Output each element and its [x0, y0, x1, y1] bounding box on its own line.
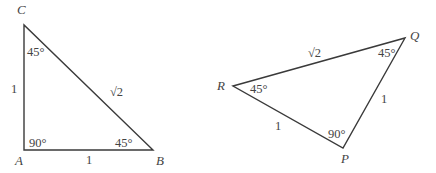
side-rp-label: 1: [275, 119, 281, 133]
vertex-label-r: R: [216, 78, 225, 93]
angle-q-label: 45°: [378, 46, 396, 60]
triangle-pqr: R Q P 45° 45° 90° 1 1 √2: [216, 28, 420, 166]
angle-r-label: 45°: [250, 82, 268, 96]
triangle-abc-outline: [24, 25, 153, 150]
vertex-label-b: B: [156, 153, 164, 168]
side-pq-label: 1: [381, 92, 387, 106]
side-ac-label: 1: [11, 82, 17, 96]
vertex-label-a: A: [14, 153, 23, 168]
congruent-triangles-figure: C A B 45° 90° 45° 1 1 √2 R Q P 45° 45° 9…: [0, 0, 436, 173]
angle-p-label: 90°: [328, 127, 346, 141]
triangle-abc: C A B 45° 90° 45° 1 1 √2: [11, 2, 164, 168]
side-bc-label: √2: [110, 85, 123, 99]
side-rq-label: √2: [308, 46, 321, 60]
angle-c-label: 45°: [27, 45, 45, 59]
vertex-label-p: P: [340, 151, 349, 166]
side-ab-label: 1: [86, 153, 92, 167]
angle-b-label: 45°: [115, 136, 133, 150]
angle-a-label: 90°: [29, 136, 47, 150]
vertex-label-c: C: [17, 2, 26, 17]
vertex-label-q: Q: [410, 28, 420, 43]
